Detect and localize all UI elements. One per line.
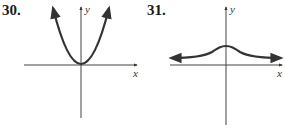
graphs-canvas: x y x y (0, 0, 285, 140)
y-axis-label: y (84, 3, 90, 15)
x-axis-label: x (276, 67, 282, 79)
graph-31: x y (170, 3, 282, 125)
x-axis-label: x (132, 67, 138, 79)
y-axis-label: y (229, 3, 235, 15)
graph-30: x y (24, 3, 138, 118)
